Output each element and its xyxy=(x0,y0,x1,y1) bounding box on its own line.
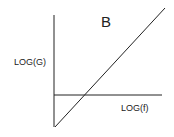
y-axis-label: LOG(G) xyxy=(14,57,46,67)
panel-label: B xyxy=(101,13,111,30)
x-axis-label: LOG(f) xyxy=(121,103,149,113)
log-log-diagram: B LOG(G) LOG(f) xyxy=(0,0,174,137)
